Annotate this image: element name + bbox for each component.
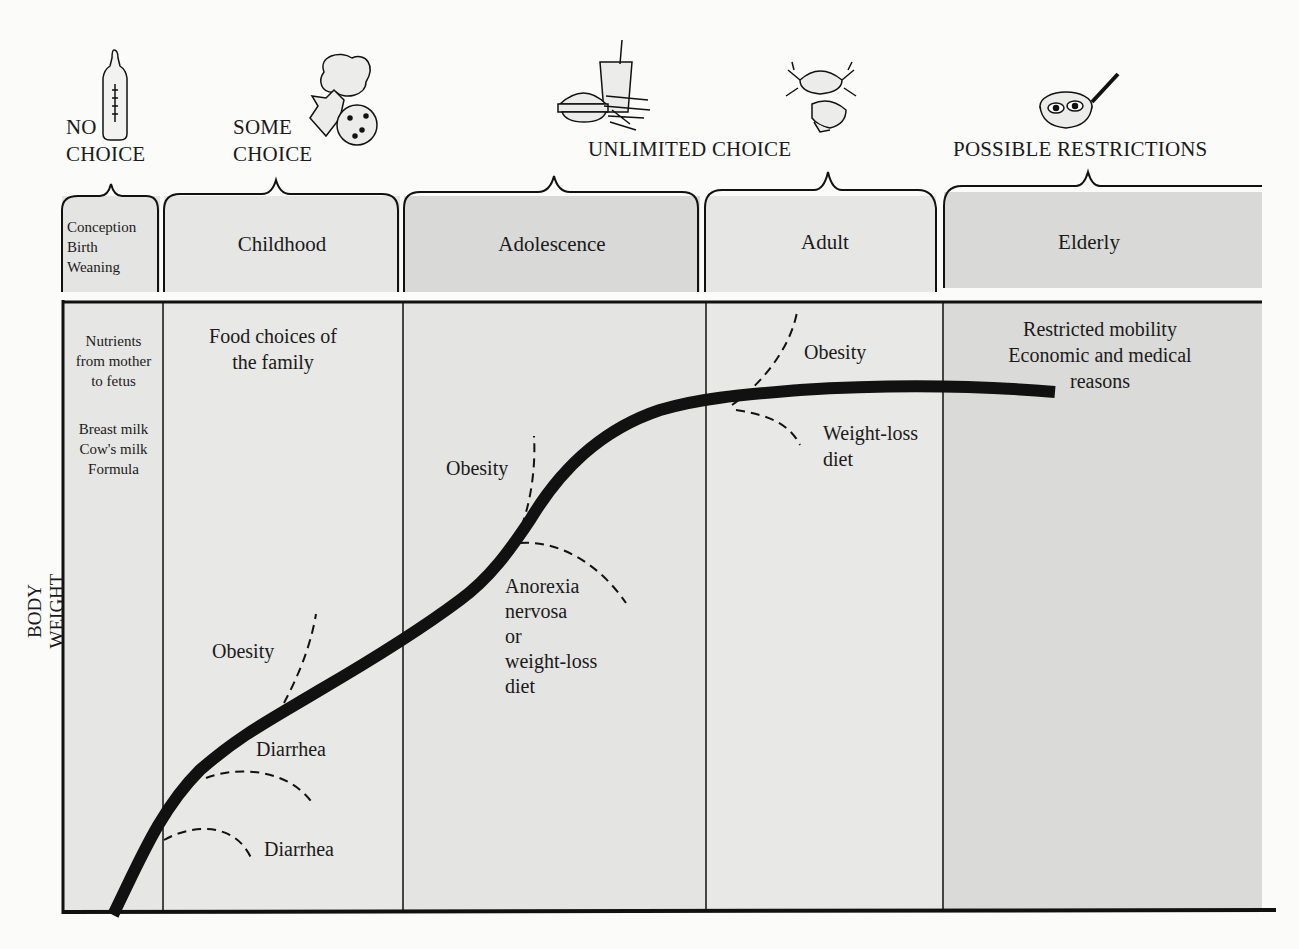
label-childhood-diarrhea-upper: Diarrhea — [256, 736, 326, 762]
note-prenatal: Nutrients from mother to fetus — [64, 331, 163, 391]
note-elderly-restrictions: Restricted mobility Economic and medical… — [960, 316, 1240, 394]
burger-fries-drink-icon — [558, 40, 650, 130]
choice-label-line1: NO — [66, 114, 145, 141]
choice-label-line2: CHOICE — [66, 141, 145, 168]
crab-shrimp-icon — [786, 62, 856, 132]
frying-pan-eggs-icon — [1040, 74, 1118, 128]
label-adolescence-obesity: Obesity — [446, 455, 508, 481]
note-family-food: Food choices of the family — [163, 323, 383, 375]
label-adolescence-anorexia: Anorexia nervosa or weight-loss diet — [505, 574, 597, 699]
choice-level-none: NO CHOICE — [66, 114, 145, 168]
label-adult-weightloss: Weight-loss diet — [823, 420, 918, 472]
cookies-icon — [310, 54, 377, 145]
stage-label-early-life: Conception Birth Weaning — [67, 217, 159, 277]
choice-label-line1: SOME — [233, 114, 312, 141]
note-infant-feeding: Breast milk Cow's milk Formula — [64, 419, 163, 479]
stage-label-adult: Adult — [705, 230, 945, 255]
choice-level-unlimited: UNLIMITED CHOICE — [588, 136, 791, 163]
y-axis-label: BODY WEIGHT — [24, 546, 46, 676]
choice-label-line2: CHOICE — [233, 141, 312, 168]
choice-level-restricted: POSSIBLE RESTRICTIONS — [953, 136, 1208, 163]
label-childhood-obesity: Obesity — [212, 638, 274, 664]
stage-label-adolescence: Adolescence — [404, 232, 700, 257]
stage-label-childhood: Childhood — [164, 232, 400, 257]
choice-level-some: SOME CHOICE — [233, 114, 312, 168]
label-adult-obesity: Obesity — [804, 339, 866, 365]
label-childhood-diarrhea-lower: Diarrhea — [264, 836, 334, 862]
stage-label-elderly: Elderly — [944, 230, 1234, 255]
